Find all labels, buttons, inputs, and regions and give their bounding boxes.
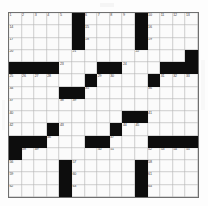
grid-cell[interactable] — [22, 99, 35, 111]
grid-cell[interactable] — [85, 185, 98, 197]
grid-cell[interactable] — [148, 50, 161, 62]
grid-cell-numbered-20[interactable]: 20 — [9, 50, 22, 62]
grid-cell[interactable] — [135, 62, 148, 74]
grid-cell-numbered-40[interactable]: 40 — [9, 111, 22, 123]
grid-cell[interactable] — [72, 62, 85, 74]
grid-cell-numbered-18[interactable]: 18 — [85, 38, 98, 50]
grid-cell-numbered-63[interactable]: 63 — [72, 185, 85, 197]
grid-cell-numbered-42[interactable]: 42 — [9, 123, 22, 135]
grid-cell[interactable] — [122, 160, 135, 172]
grid-cell-numbered-45[interactable]: 45 — [135, 123, 148, 135]
grid-cell-numbered-59[interactable]: 59 — [9, 172, 22, 184]
grid-cell-numbered-43[interactable]: 43 — [59, 123, 72, 135]
grid-cell[interactable] — [34, 25, 47, 37]
grid-cell-numbered-48[interactable]: 48 — [22, 148, 35, 160]
grid-cell-numbered-55[interactable]: 55 — [185, 148, 198, 160]
grid-cell[interactable] — [160, 38, 173, 50]
grid-cell[interactable] — [110, 185, 123, 197]
grid-cell-numbered-39[interactable]: 39 — [72, 99, 85, 111]
grid-cell-numbered-50[interactable]: 50 — [97, 148, 110, 160]
grid-cell-numbered-49[interactable]: 49 — [34, 148, 47, 160]
grid-cell[interactable] — [110, 87, 123, 99]
grid-cell[interactable] — [97, 99, 110, 111]
grid-cell-numbered-25[interactable]: 25 — [9, 74, 22, 86]
grid-cell-numbered-8[interactable]: 8 — [110, 13, 123, 25]
grid-cell[interactable] — [85, 62, 98, 74]
grid-cell[interactable] — [47, 172, 60, 184]
grid-cell[interactable] — [85, 123, 98, 135]
grid-cell-numbered-46[interactable]: 46 — [47, 136, 60, 148]
grid-cell[interactable] — [97, 185, 110, 197]
grid-cell[interactable] — [34, 111, 47, 123]
grid-cell[interactable] — [173, 38, 186, 50]
grid-cell-numbered-60[interactable]: 60 — [72, 172, 85, 184]
grid-cell[interactable] — [173, 25, 186, 37]
crossword-grid[interactable]: 1234567891011121314151617181920212223242… — [9, 13, 198, 197]
grid-cell-numbered-21[interactable]: 21 — [72, 50, 85, 62]
grid-cell[interactable] — [135, 87, 148, 99]
grid-cell-numbered-61[interactable]: 61 — [148, 172, 161, 184]
grid-cell-numbered-23[interactable]: 23 — [59, 62, 72, 74]
grid-cell[interactable] — [22, 172, 35, 184]
grid-cell[interactable] — [47, 25, 60, 37]
grid-cell[interactable] — [97, 123, 110, 135]
grid-cell-numbered-51[interactable]: 51 — [110, 148, 123, 160]
grid-cell-numbered-26[interactable]: 26 — [22, 74, 35, 86]
grid-cell[interactable] — [160, 50, 173, 62]
grid-cell-numbered-62[interactable]: 62 — [9, 185, 22, 197]
grid-cell-numbered-6[interactable]: 6 — [85, 13, 98, 25]
grid-cell-numbered-27[interactable]: 27 — [34, 74, 47, 86]
grid-cell-numbered-41[interactable]: 41 — [148, 111, 161, 123]
grid-cell[interactable] — [72, 148, 85, 160]
grid-cell-numbered-11[interactable]: 11 — [160, 13, 173, 25]
grid-cell[interactable] — [22, 87, 35, 99]
grid-cell[interactable] — [72, 136, 85, 148]
grid-cell-numbered-31[interactable]: 31 — [160, 74, 173, 86]
grid-cell-numbered-24[interactable]: 24 — [122, 62, 135, 74]
grid-cell[interactable] — [72, 74, 85, 86]
grid-cell-numbered-44[interactable]: 44 — [122, 123, 135, 135]
grid-cell[interactable] — [34, 160, 47, 172]
grid-cell[interactable] — [72, 111, 85, 123]
grid-cell[interactable] — [59, 136, 72, 148]
grid-cell[interactable] — [110, 50, 123, 62]
grid-cell-numbered-30[interactable]: 30 — [110, 74, 123, 86]
grid-cell-numbered-56[interactable]: 56 — [9, 160, 22, 172]
grid-cell[interactable] — [59, 25, 72, 37]
grid-cell-numbered-9[interactable]: 9 — [122, 13, 135, 25]
grid-cell-numbered-7[interactable]: 7 — [97, 13, 110, 25]
grid-cell[interactable] — [135, 74, 148, 86]
grid-cell[interactable] — [97, 87, 110, 99]
grid-cell-numbered-54[interactable]: 54 — [173, 148, 186, 160]
grid-cell[interactable] — [173, 99, 186, 111]
grid-cell[interactable] — [22, 123, 35, 135]
grid-cell[interactable] — [173, 185, 186, 197]
grid-cell[interactable] — [47, 87, 60, 99]
grid-cell-numbered-64[interactable]: 64 — [148, 185, 161, 197]
grid-cell[interactable] — [97, 50, 110, 62]
grid-cell[interactable] — [59, 148, 72, 160]
grid-cell[interactable] — [185, 25, 198, 37]
grid-cell[interactable] — [160, 99, 173, 111]
grid-cell[interactable] — [97, 111, 110, 123]
grid-cell[interactable] — [148, 62, 161, 74]
grid-cell[interactable] — [72, 123, 85, 135]
grid-cell-numbered-2[interactable]: 2 — [22, 13, 35, 25]
grid-cell-numbered-17[interactable]: 17 — [9, 38, 22, 50]
grid-cell[interactable] — [110, 99, 123, 111]
grid-cell-numbered-10[interactable]: 10 — [148, 13, 161, 25]
grid-cell[interactable] — [34, 123, 47, 135]
grid-cell[interactable] — [160, 25, 173, 37]
grid-cell[interactable] — [122, 87, 135, 99]
grid-cell[interactable] — [160, 185, 173, 197]
grid-cell[interactable] — [85, 99, 98, 111]
grid-cell[interactable] — [173, 111, 186, 123]
grid-cell[interactable] — [110, 172, 123, 184]
grid-cell-numbered-34[interactable]: 34 — [9, 87, 22, 99]
grid-cell[interactable] — [122, 148, 135, 160]
grid-cell[interactable] — [59, 111, 72, 123]
grid-cell[interactable] — [185, 38, 198, 50]
grid-cell[interactable] — [173, 87, 186, 99]
grid-cell[interactable] — [185, 123, 198, 135]
grid-cell[interactable] — [34, 87, 47, 99]
